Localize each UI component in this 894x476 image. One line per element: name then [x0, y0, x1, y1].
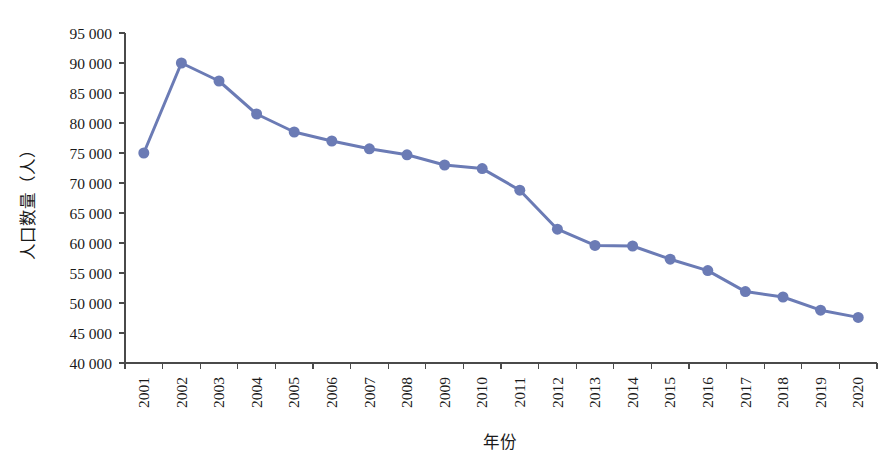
- x-tick-label: 2020: [849, 377, 866, 408]
- data-point-marker: [138, 148, 149, 159]
- x-tick-label: 2018: [774, 377, 791, 408]
- y-tick-label: 40 000: [69, 355, 112, 372]
- data-point-marker: [853, 312, 864, 323]
- data-point-marker: [740, 286, 751, 297]
- x-axis-tick-marks: [125, 363, 877, 369]
- y-tick-label: 90 000: [69, 55, 112, 72]
- y-axis-title: 人口数量（人）: [19, 141, 38, 260]
- data-point-marker: [439, 160, 450, 171]
- data-point-marker: [176, 58, 187, 69]
- y-tick-label: 75 000: [69, 145, 112, 162]
- x-tick-label: 2006: [323, 377, 340, 408]
- x-tick-label: 2005: [285, 377, 302, 408]
- x-tick-label: 2007: [361, 377, 378, 408]
- y-tick-label: 55 000: [69, 265, 112, 282]
- x-tick-label: 2016: [699, 377, 716, 408]
- x-tick-label: 2014: [624, 377, 641, 408]
- y-tick-label: 70 000: [69, 175, 112, 192]
- x-tick-label: 2009: [436, 377, 453, 408]
- data-point-marker: [326, 136, 337, 147]
- x-tick-label: 2015: [661, 377, 678, 408]
- y-tick-label: 85 000: [69, 85, 112, 102]
- x-axis-title: 年份: [483, 433, 517, 452]
- x-tick-label: 2004: [248, 377, 265, 408]
- x-tick-label: 2019: [812, 377, 829, 408]
- data-point-marker: [590, 240, 601, 251]
- y-tick-label: 45 000: [69, 325, 112, 342]
- x-tick-label: 2008: [398, 377, 415, 408]
- x-tick-label: 2013: [586, 377, 603, 408]
- data-point-marker: [514, 185, 525, 196]
- population-line-chart: 95 00090 00085 00080 00075 00070 00065 0…: [0, 0, 894, 476]
- y-tick-label: 95 000: [69, 25, 112, 42]
- chart-canvas: 95 00090 00085 00080 00075 00070 00065 0…: [0, 0, 894, 476]
- data-point-marker: [552, 224, 563, 235]
- x-tick-label: 2001: [135, 377, 152, 408]
- data-point-marker: [289, 127, 300, 138]
- x-tick-label: 2017: [737, 377, 754, 408]
- data-point-marker: [402, 149, 413, 160]
- y-tick-label: 50 000: [69, 295, 112, 312]
- y-tick-label: 65 000: [69, 205, 112, 222]
- x-tick-label: 2002: [173, 377, 190, 408]
- x-tick-label: 2011: [511, 377, 528, 407]
- data-point-marker: [364, 143, 375, 154]
- y-tick-label: 60 000: [69, 235, 112, 252]
- x-tick-label: 2003: [210, 377, 227, 408]
- x-tick-label: 2010: [473, 377, 490, 408]
- x-tick-label: 2012: [549, 377, 566, 408]
- data-point-marker: [702, 265, 713, 276]
- y-tick-label: 80 000: [69, 115, 112, 132]
- data-point-marker: [251, 109, 262, 120]
- data-point-marker: [815, 305, 826, 316]
- data-point-marker: [627, 241, 638, 252]
- data-point-marker: [214, 76, 225, 87]
- data-point-marker: [665, 254, 676, 265]
- data-point-marker: [778, 292, 789, 303]
- data-point-marker: [477, 163, 488, 174]
